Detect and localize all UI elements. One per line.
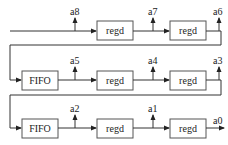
row-2: FIFO a5 regd a4 regd a3 <box>10 55 222 128</box>
block-label: regd <box>179 25 197 36</box>
tap-label-a7: a7 <box>148 6 157 17</box>
tap-label-a8: a8 <box>70 6 79 17</box>
block-label: regd <box>106 75 124 86</box>
block-label: regd <box>179 123 197 134</box>
tap-label-a2: a2 <box>70 103 79 114</box>
tap-label-a6: a6 <box>213 6 222 17</box>
diagram-canvas: a8 regd a7 regd a6 FIFO a5 regd a4 regd … <box>0 0 228 145</box>
block-label: regd <box>106 25 124 36</box>
row-3: FIFO a2 regd a1 regd a0 <box>22 103 224 138</box>
block-label: regd <box>106 123 124 134</box>
tap-label-a0: a0 <box>213 115 222 126</box>
block-label: regd <box>179 75 197 86</box>
tap-label-a1: a1 <box>148 103 157 114</box>
block-label: FIFO <box>29 75 51 86</box>
tap-label-a5: a5 <box>70 55 79 66</box>
block-label: FIFO <box>29 123 51 134</box>
tap-label-a3: a3 <box>213 55 222 66</box>
tap-label-a4: a4 <box>148 55 157 66</box>
row-1: a8 regd a7 regd a6 <box>10 6 222 80</box>
